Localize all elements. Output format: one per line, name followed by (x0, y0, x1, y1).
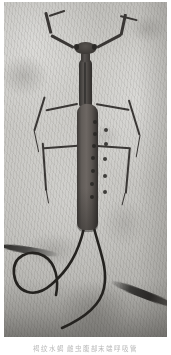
abdomen-spot-6 (90, 182, 94, 186)
abdomen-spot-1 (93, 120, 97, 124)
tail-filament-1 (14, 228, 84, 295)
abdomen-spot-8 (104, 128, 108, 132)
abdomen-spot-2 (93, 132, 97, 136)
insect-eye-right (92, 44, 97, 50)
figure-caption: 褐纹水蝎 雌虫腹部末端呼吸管 (0, 343, 171, 355)
abdomen-spot-4 (91, 156, 95, 160)
prothorax-seam (84, 62, 86, 104)
figure-root: 褐纹水蝎 雌虫腹部末端呼吸管 (0, 0, 171, 355)
insect-eye-left (74, 44, 79, 50)
abdomen-spot-11 (103, 174, 107, 178)
tail-filament-2 (62, 228, 105, 328)
abdomen-spot-9 (104, 142, 108, 146)
abdomen-spot-12 (103, 190, 107, 194)
photograph-plate (4, 2, 167, 337)
abdomen-shading (77, 188, 98, 232)
abdomen-spot-10 (103, 157, 107, 161)
abdomen-spot-7 (90, 195, 94, 199)
abdomen-spot-3 (92, 144, 96, 148)
abdomen-spot-5 (91, 169, 95, 173)
water-scorpion-insect (4, 2, 167, 337)
